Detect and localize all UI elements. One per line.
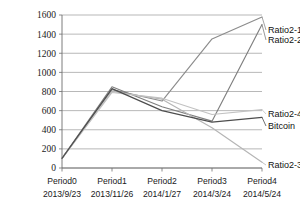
x-date-label: 2014/1/27 (143, 189, 181, 199)
series-lines (62, 17, 262, 162)
line-chart: 02004006008001000120014001600 Period0201… (0, 0, 300, 217)
legend-leader-ratio2-4 (262, 110, 266, 114)
y-tick-label: 1000 (37, 68, 56, 78)
legend-label-ratio2-3: Ratio2-3 (268, 160, 300, 170)
x-date-label: 2014/5/24 (243, 189, 281, 199)
x-category-label: Period1 (97, 176, 127, 186)
legend-label-bitcoin: Bitcoin (268, 121, 295, 131)
x-category-label: Period2 (147, 176, 177, 186)
series-line-ratio2-3 (62, 92, 262, 163)
legend-label-ratio2-4: Ratio2-4 (268, 109, 300, 119)
x-category-label: Period4 (247, 176, 277, 186)
legend-leader-ratio2-3 (262, 162, 266, 165)
y-tick-label: 1200 (37, 49, 56, 59)
y-tick-label: 400 (42, 125, 57, 135)
y-tick-label: 600 (42, 106, 57, 116)
y-tick-label: 200 (42, 144, 57, 154)
x-tick-labels: Period02013/9/23Period12013/11/26Period2… (43, 176, 281, 199)
legend-label-ratio2-2: Ratio2-2 (268, 35, 300, 45)
x-category-label: Period3 (197, 176, 227, 186)
legend-leader-lines (262, 17, 266, 165)
x-date-label: 2013/11/26 (91, 189, 134, 199)
x-date-label: 2014/3/24 (193, 189, 231, 199)
legend: Ratio2-1Ratio2-2Ratio2-4BitcoinRatio2-3 (268, 25, 300, 170)
legend-label-ratio2-1: Ratio2-1 (268, 25, 300, 35)
chart-canvas: 02004006008001000120014001600 Period0201… (0, 0, 300, 217)
legend-leader-bitcoin (262, 117, 266, 126)
y-tick-label: 1400 (37, 30, 56, 40)
y-tick-labels: 02004006008001000120014001600 (37, 10, 56, 173)
axis-ticks (59, 15, 262, 172)
y-tick-label: 0 (51, 163, 56, 173)
y-tick-label: 1600 (37, 10, 56, 20)
gridlines (62, 15, 262, 168)
x-category-label: Period0 (47, 176, 77, 186)
x-date-label: 2013/9/23 (43, 189, 81, 199)
y-tick-label: 800 (42, 87, 57, 97)
series-line-ratio2-1 (62, 17, 262, 159)
